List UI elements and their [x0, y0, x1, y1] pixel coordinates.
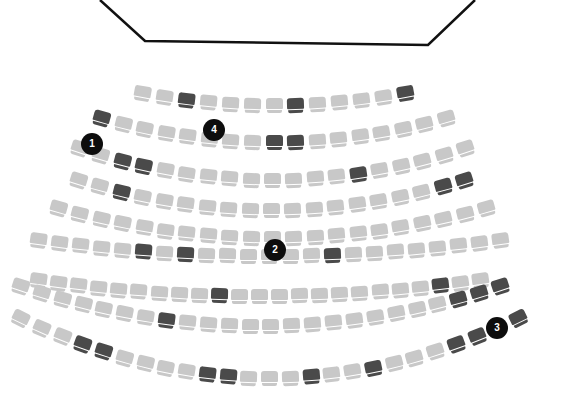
- seat-row-5-15[interactable]: [349, 225, 368, 242]
- seat-row-7-18[interactable]: [371, 284, 389, 300]
- seat-row-8-7[interactable]: [136, 309, 155, 326]
- seat-row-3-15[interactable]: [370, 162, 389, 180]
- seat-row-5-12[interactable]: [285, 230, 302, 245]
- seat-row-8-9[interactable]: [178, 314, 196, 331]
- seat-row-3-11[interactable]: [285, 172, 303, 188]
- seat-row-3-12[interactable]: [306, 171, 324, 187]
- seat-row-7-15[interactable]: [311, 287, 329, 303]
- seat-row-9-10[interactable]: [198, 366, 217, 383]
- seat-row-3-9[interactable]: [242, 172, 260, 188]
- seat-row-9-12[interactable]: [240, 370, 258, 386]
- seat-row-9-5[interactable]: [93, 342, 114, 361]
- seat-row-5-17[interactable]: [391, 219, 410, 237]
- seat-row-7-20[interactable]: [411, 280, 429, 297]
- seat-row-7-9[interactable]: [190, 287, 208, 303]
- seat-row-9-13[interactable]: [261, 371, 278, 386]
- seat-row-9-25[interactable]: [508, 308, 530, 329]
- seat-row-1-2[interactable]: [155, 88, 174, 105]
- seat-row-5-14[interactable]: [328, 228, 346, 244]
- seat-row-5-9[interactable]: [221, 229, 239, 245]
- seat-row-8-15[interactable]: [304, 317, 322, 333]
- seat-row-6-14[interactable]: [303, 248, 320, 263]
- seat-row-4-3[interactable]: [111, 183, 131, 202]
- seat-row-3-8[interactable]: [221, 171, 239, 187]
- seat-row-3-5[interactable]: [156, 162, 175, 180]
- seat-row-8-12[interactable]: [241, 319, 258, 334]
- seat-row-9-9[interactable]: [177, 363, 196, 381]
- seat-row-8-24[interactable]: [490, 277, 511, 297]
- seat-row-9-21[interactable]: [425, 342, 446, 361]
- seat-row-6-18[interactable]: [386, 244, 404, 260]
- seat-row-7-11[interactable]: [231, 289, 248, 304]
- seat-row-5-3[interactable]: [91, 210, 111, 228]
- marker-badge-2[interactable]: 2: [264, 239, 286, 261]
- seat-row-8-6[interactable]: [115, 305, 134, 323]
- seat-row-4-16[interactable]: [390, 188, 410, 206]
- seat-row-1-5[interactable]: [221, 96, 239, 112]
- seat-row-3-18[interactable]: [434, 146, 455, 165]
- seat-row-7-4[interactable]: [90, 280, 108, 297]
- seat-row-8-5[interactable]: [94, 300, 114, 318]
- seat-row-8-20[interactable]: [407, 300, 427, 318]
- seat-row-8-4[interactable]: [73, 295, 93, 314]
- seat-row-9-15[interactable]: [302, 369, 320, 385]
- seat-row-2-4[interactable]: [157, 124, 176, 142]
- seat-row-8-3[interactable]: [52, 290, 72, 309]
- seat-row-9-7[interactable]: [135, 354, 155, 373]
- seat-row-2-9[interactable]: [266, 135, 283, 150]
- seat-row-4-11[interactable]: [284, 202, 302, 218]
- seat-row-2-7[interactable]: [222, 133, 240, 149]
- seat-row-6-3[interactable]: [71, 237, 90, 254]
- seat-row-4-8[interactable]: [220, 201, 238, 217]
- seat-row-9-19[interactable]: [384, 354, 404, 373]
- seat-row-7-13[interactable]: [271, 289, 288, 304]
- seat-row-6-22[interactable]: [470, 235, 489, 252]
- seat-row-1-12[interactable]: [374, 88, 393, 105]
- seat-row-5-16[interactable]: [370, 222, 389, 239]
- seat-row-3-13[interactable]: [328, 169, 347, 186]
- seat-row-7-21[interactable]: [431, 277, 450, 294]
- seat-row-6-16[interactable]: [345, 246, 363, 262]
- seat-row-2-10[interactable]: [287, 134, 305, 150]
- seat-row-1-11[interactable]: [352, 92, 371, 109]
- seat-row-3-6[interactable]: [177, 166, 196, 183]
- seat-row-8-11[interactable]: [220, 318, 238, 334]
- seat-row-7-16[interactable]: [331, 286, 349, 302]
- seat-row-4-2[interactable]: [90, 177, 110, 196]
- seat-row-2-11[interactable]: [308, 133, 326, 149]
- seat-row-6-23[interactable]: [491, 232, 510, 249]
- seat-row-4-1[interactable]: [68, 171, 89, 190]
- seat-row-4-15[interactable]: [369, 192, 388, 210]
- seat-row-1-9[interactable]: [309, 96, 327, 112]
- seat-row-6-1[interactable]: [29, 232, 48, 249]
- seat-row-8-13[interactable]: [262, 319, 279, 334]
- seat-row-9-17[interactable]: [343, 363, 362, 381]
- seat-row-8-10[interactable]: [199, 317, 217, 333]
- seat-row-7-22[interactable]: [451, 275, 470, 292]
- seat-row-3-16[interactable]: [391, 157, 411, 175]
- seat-row-1-13[interactable]: [396, 85, 415, 103]
- seat-row-2-8[interactable]: [244, 134, 262, 150]
- seat-row-1-3[interactable]: [177, 92, 196, 109]
- seat-row-2-14[interactable]: [372, 124, 391, 142]
- seat-row-4-12[interactable]: [305, 201, 323, 217]
- marker-badge-4[interactable]: 4: [203, 119, 225, 141]
- seat-row-6-20[interactable]: [428, 240, 446, 257]
- seat-row-5-20[interactable]: [455, 205, 475, 224]
- seat-row-7-7[interactable]: [150, 285, 168, 301]
- seat-row-7-12[interactable]: [251, 289, 268, 304]
- seat-row-7-8[interactable]: [170, 286, 188, 302]
- seat-row-1-4[interactable]: [199, 94, 217, 110]
- seat-row-2-13[interactable]: [351, 128, 370, 145]
- seat-row-3-3[interactable]: [112, 152, 132, 171]
- seat-row-5-21[interactable]: [476, 199, 496, 218]
- seat-row-9-18[interactable]: [363, 359, 383, 377]
- seat-row-6-10[interactable]: [219, 248, 236, 263]
- seat-row-4-5[interactable]: [155, 192, 174, 210]
- seat-row-7-14[interactable]: [291, 288, 308, 303]
- seat-row-5-19[interactable]: [434, 210, 454, 228]
- seat-row-3-4[interactable]: [134, 157, 154, 175]
- seat-row-6-5[interactable]: [113, 242, 131, 258]
- seat-row-5-7[interactable]: [178, 225, 197, 242]
- seat-row-9-1[interactable]: [10, 308, 32, 329]
